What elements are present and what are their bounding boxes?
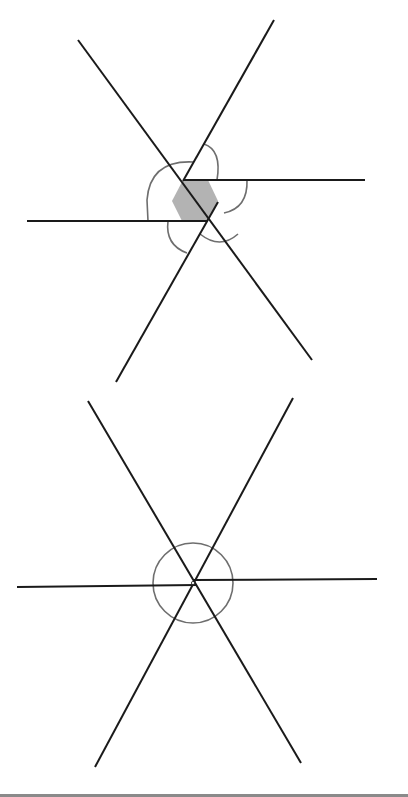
ray-right-horizontal bbox=[193, 579, 377, 580]
ray-lines bbox=[17, 398, 377, 767]
arc-lower-left bbox=[168, 221, 187, 253]
ray-descending bbox=[78, 40, 312, 360]
center-point bbox=[191, 581, 194, 584]
arc-bottom bbox=[200, 234, 238, 242]
diagram-canvas bbox=[0, 0, 408, 797]
arc-top bbox=[204, 144, 218, 180]
ray-rising bbox=[183, 20, 274, 181]
concurrent-rays-diagram bbox=[17, 398, 377, 767]
ray-left-horizontal bbox=[17, 585, 197, 587]
arc-right bbox=[224, 180, 247, 213]
shifted-rays-diagram bbox=[27, 20, 365, 382]
ray-lines bbox=[27, 20, 365, 382]
